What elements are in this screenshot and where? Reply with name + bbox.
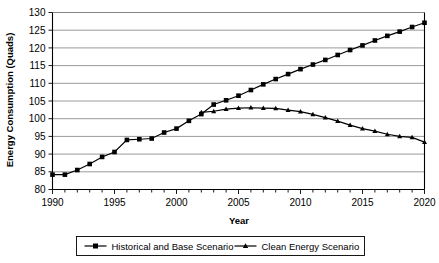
y-tick-label: 100 bbox=[29, 113, 46, 124]
data-point-marker bbox=[75, 168, 80, 173]
data-point-marker bbox=[100, 155, 105, 160]
data-point-marker bbox=[385, 34, 390, 39]
data-point-marker bbox=[335, 53, 340, 58]
y-tick-label: 130 bbox=[29, 7, 46, 18]
data-point-marker bbox=[174, 126, 179, 131]
y-tick-label: 110 bbox=[30, 78, 46, 89]
data-point-marker bbox=[112, 150, 117, 155]
y-tick-label: 80 bbox=[34, 184, 46, 195]
y-tick-label: 95 bbox=[34, 131, 46, 142]
data-point-marker bbox=[87, 162, 92, 167]
data-point-marker bbox=[187, 119, 192, 124]
data-point-marker bbox=[298, 67, 303, 72]
energy-consumption-line-chart: 80859095100105110115120125130 1990199520… bbox=[0, 0, 439, 263]
data-point-marker bbox=[360, 43, 365, 48]
y-tick-label: 105 bbox=[29, 96, 46, 107]
y-tick-label: 120 bbox=[29, 43, 46, 54]
data-point-marker bbox=[323, 58, 328, 63]
legend-label: Clean Energy Scenario bbox=[262, 241, 360, 252]
x-tick-label: 2015 bbox=[351, 197, 374, 208]
y-tick-label: 115 bbox=[30, 60, 46, 71]
x-tick-label: 2005 bbox=[227, 197, 250, 208]
data-point-marker bbox=[63, 172, 68, 177]
y-tick-label: 125 bbox=[29, 25, 46, 36]
data-point-marker bbox=[373, 38, 378, 43]
data-point-marker bbox=[211, 102, 216, 107]
data-point-marker bbox=[50, 172, 55, 177]
x-tick-label: 2000 bbox=[165, 197, 188, 208]
y-axis-title: Energy Consumption (Quads) bbox=[4, 33, 15, 168]
x-tick-label: 1995 bbox=[103, 197, 126, 208]
data-point-marker bbox=[125, 138, 130, 143]
data-point-marker bbox=[311, 62, 316, 67]
data-point-marker bbox=[236, 93, 241, 98]
data-point-marker bbox=[162, 130, 167, 135]
x-tick-label: 2020 bbox=[413, 197, 436, 208]
data-point-marker bbox=[348, 48, 353, 53]
x-axis-title: Year bbox=[229, 215, 249, 226]
data-point-marker bbox=[286, 72, 291, 77]
data-point-marker bbox=[273, 77, 278, 82]
data-point-marker bbox=[422, 20, 427, 25]
data-point-marker bbox=[137, 137, 142, 142]
x-tick-label: 2010 bbox=[289, 197, 312, 208]
data-point-marker bbox=[249, 88, 254, 93]
x-tick-label: 1990 bbox=[41, 197, 64, 208]
data-point-marker bbox=[261, 82, 266, 87]
data-point-marker bbox=[224, 98, 229, 103]
data-point-marker bbox=[397, 29, 402, 34]
legend-square-marker bbox=[93, 244, 98, 249]
y-tick-label: 85 bbox=[34, 166, 46, 177]
chart-legend: Historical and Base ScenarioClean Energy… bbox=[77, 237, 365, 256]
y-tick-label: 90 bbox=[34, 149, 46, 160]
data-point-marker bbox=[149, 136, 154, 141]
data-point-marker bbox=[410, 25, 415, 30]
chart-figure: 80859095100105110115120125130 1990199520… bbox=[0, 0, 439, 263]
legend-label: Historical and Base Scenario bbox=[112, 241, 234, 252]
